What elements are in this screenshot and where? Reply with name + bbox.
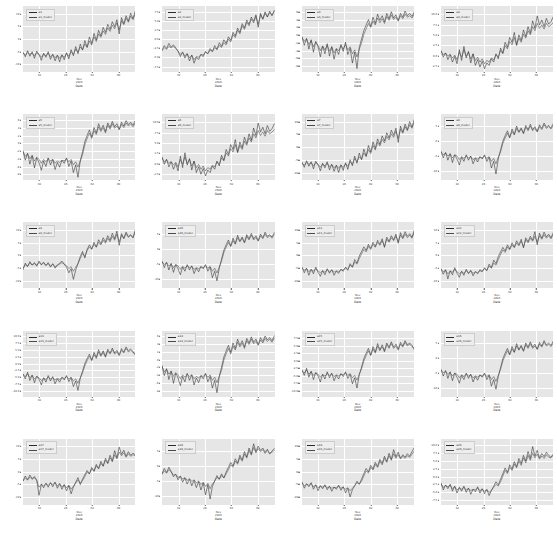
legend-entry: a17 [29,443,54,446]
legend[interactable]: a3a3_model [305,9,334,22]
legend-label: a18 [178,444,183,447]
legend[interactable]: a10a10_model [165,225,196,238]
x-axis-label-block: Nov2020Date [302,511,414,521]
legend[interactable]: a8a8_model [444,117,473,130]
plot-area: a14a14_model [162,331,274,397]
legend-entry: a18 [168,443,193,446]
legend-entry: a18_model [168,448,193,451]
y-tick-mark [20,128,21,129]
legend-label: a13_model [39,340,54,343]
legend[interactable]: a7a7_model [305,117,334,130]
y-axis: -10-505 [139,439,160,505]
y-tick-mark [298,375,299,376]
series-line-a12_model [441,235,553,274]
legend-line-swatch [307,120,315,121]
y-tick-mark [438,461,439,462]
series-line-a16_model [441,342,553,381]
x-axis-label-block: Nov2020Date [23,403,135,413]
plot-area: a2a2_model [162,6,274,72]
legend[interactable]: a14a14_model [165,333,196,346]
y-tick-mark [159,367,160,368]
legend[interactable]: a5a5_model [26,117,55,130]
y-tick-label: -2.5 [432,64,437,67]
subplot-a17: -10-50510a17a17_model19260209Nov2020Date [0,433,139,541]
legend-entry: a20_model [446,448,471,451]
x-tick-label: 02 [508,507,511,510]
legend-line-swatch [307,341,315,342]
x-tick-label: 09 [256,399,259,402]
y-tick-label: 10.0 [431,13,437,16]
legend[interactable]: a18a18_model [165,441,196,454]
x-tick-label: 26 [343,183,346,186]
legend[interactable]: a6a6_model [165,117,194,130]
y-tick-mark [159,352,160,353]
subplot-a19: -10-50510a19a19_model19260209Nov2020Date [279,433,418,541]
legend[interactable]: a19a19_model [305,441,336,454]
plot-area: a1a1_model [23,6,135,72]
legend[interactable]: a20a20_model [444,441,475,454]
x-axis-label-block: Nov2020Date [162,403,274,413]
legend[interactable]: a15a15_model [305,333,336,346]
legend[interactable]: a1a1_model [26,9,55,22]
x-tick-label: 02 [230,74,233,77]
legend[interactable]: a13a13_model [26,333,57,346]
y-tick-mark [298,368,299,369]
x-tick-label: 19 [455,507,458,510]
legend-line-swatch [307,337,315,338]
legend[interactable]: a4a4_model [444,9,473,22]
legend[interactable]: a9a9_model [26,225,55,238]
y-tick-mark [20,484,21,485]
y-axis: -10-50510 [279,439,300,505]
y-axis: -10-505 [139,222,160,288]
y-tick-mark [20,39,21,40]
series-line-a15 [302,340,414,387]
y-axis: -7.5-5.0-2.50.02.55.07.5 [139,6,160,72]
legend-entry: a6_model [168,124,191,127]
legend[interactable]: a16a16_model [444,333,475,346]
y-tick-label: 10.0 [431,444,437,447]
y-tick-mark [438,357,439,358]
y-axis: -2.50.02.55.07.510.0 [418,6,439,72]
legend-line-swatch [29,12,37,13]
y-tick-mark [438,230,439,231]
x-axis-label-block: Nov2020Date [441,403,553,413]
x-tick-label: 26 [482,74,485,77]
y-tick-label: -2.5 [14,369,19,372]
x-axis-label-block: Nov2020Date [23,294,135,304]
legend-label: a1_model [39,16,52,19]
y-tick-mark [438,55,439,56]
x-tick-label: 09 [535,399,538,402]
x-tick-label: 26 [64,74,67,77]
legend-label: a14 [178,335,183,338]
y-tick-mark [438,66,439,67]
x-axis-title: Date [162,193,274,197]
x-tick-label: 02 [508,291,511,294]
legend-line-swatch [168,12,176,13]
legend[interactable]: a17a17_model [26,441,57,454]
y-tick-mark [298,19,299,20]
legend-line-swatch [446,228,454,229]
y-axis: -8-6-4-20246 [0,114,21,180]
legend[interactable]: a12a12_model [444,225,475,238]
plot-area: a6a6_model [162,114,274,180]
legend-entry: a14 [168,335,193,338]
y-axis: -8-6-4-20246 [139,331,160,397]
legend-label: a20 [456,444,461,447]
legend[interactable]: a2a2_model [165,9,194,22]
plot-area: a15a15_model [302,331,414,397]
legend[interactable]: a11a11_model [305,225,336,238]
series-line-a9_model [23,233,135,272]
x-tick-label: 26 [482,183,485,186]
legend-label: a9 [39,227,42,230]
y-tick-label: -2.5 [154,47,159,50]
legend-line-swatch [29,233,37,234]
legend-entry: a16 [446,335,471,338]
x-tick-label: 09 [117,183,120,186]
x-axis-label-block: Nov2020Date [302,78,414,88]
y-tick-mark [159,163,160,164]
legend-label: a11_model [317,232,332,235]
x-axis-label-block: Nov2020Date [162,511,274,521]
legend-label: a14_model [178,340,193,343]
y-tick-mark [159,234,160,235]
x-tick-label: 19 [38,507,41,510]
